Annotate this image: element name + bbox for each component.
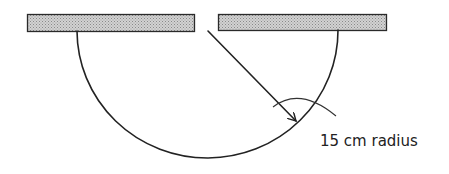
- semicircle-diagram: 15 cm radius: [0, 0, 449, 174]
- radius-label: 15 cm radius: [320, 132, 418, 150]
- right-bar: [219, 15, 387, 31]
- semicircle-curve: [77, 30, 338, 158]
- radius-arrow: [208, 31, 296, 121]
- left-bar: [28, 15, 195, 32]
